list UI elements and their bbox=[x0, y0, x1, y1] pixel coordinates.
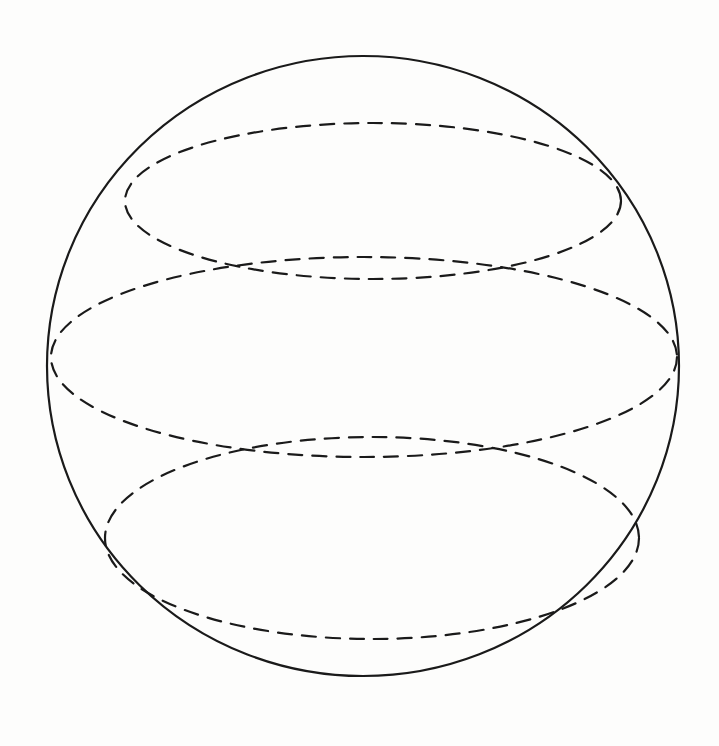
sphere-outline bbox=[47, 56, 679, 676]
top-latitude-ellipse bbox=[125, 123, 621, 279]
sphere-diagram bbox=[0, 0, 719, 746]
equator-ellipse bbox=[51, 257, 677, 457]
